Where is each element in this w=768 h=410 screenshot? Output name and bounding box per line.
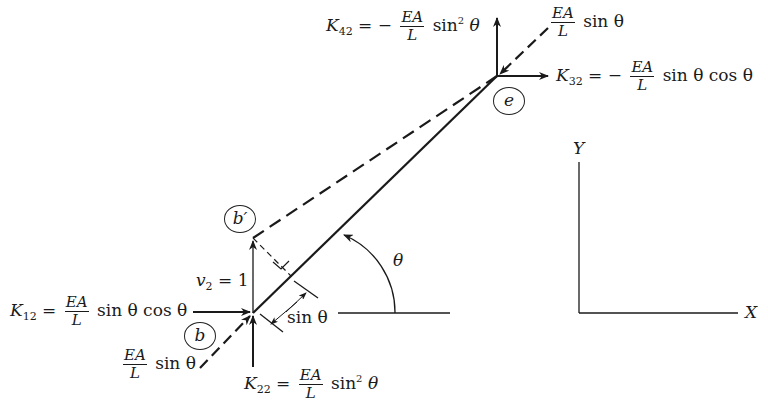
- axial-b-num: EA: [123, 348, 147, 365]
- member-line: [253, 76, 497, 313]
- k22-sup: 2: [356, 373, 362, 384]
- k42-fraction: EAL: [400, 10, 424, 43]
- axial-e-tail: sin θ: [583, 11, 624, 31]
- k12-fraction: EAL: [65, 295, 89, 328]
- k32-symbol: K: [556, 65, 569, 85]
- k42-label: K42 = − EAL sin2 θ: [326, 10, 480, 43]
- perpendicular-line: [253, 238, 291, 276]
- y-axis-label: Y: [573, 140, 584, 157]
- k32-tail: sin θ cos θ: [663, 65, 753, 85]
- k32-den: L: [630, 77, 654, 93]
- axial-e-den: L: [551, 23, 575, 39]
- theta-arc: [344, 235, 395, 313]
- axial-force-e-label: EAL sin θ: [548, 6, 624, 39]
- k32-sub: 32: [569, 75, 583, 88]
- k12-label: K12 = EAL sin θ cos θ: [10, 295, 187, 328]
- displacement-sub: 2: [206, 280, 213, 293]
- k22-tail-pre: sin: [331, 373, 356, 393]
- k22-label: K22 = EAL sin2 θ: [244, 368, 378, 401]
- node-b-text: b: [195, 325, 206, 345]
- k32-fraction: EAL: [630, 60, 654, 93]
- k32-sign: −: [608, 65, 622, 85]
- axial-b-den: L: [123, 365, 147, 381]
- dim-tick-upper: [294, 281, 318, 298]
- k12-den: L: [65, 312, 89, 328]
- axial-force-b-label: EAL sin θ: [120, 348, 196, 381]
- node-e-text: e: [504, 90, 514, 110]
- projection-label: sin θ: [287, 309, 328, 326]
- k22-eq: =: [276, 373, 290, 393]
- angle-label: θ: [393, 252, 403, 269]
- k12-num: EA: [65, 295, 89, 312]
- k42-sup: 2: [458, 15, 464, 26]
- k12-eq: =: [42, 300, 56, 320]
- k42-tail-post: θ: [470, 15, 480, 35]
- x-axis-label: X: [745, 304, 757, 321]
- k12-tail: sin θ cos θ: [97, 300, 187, 320]
- right-angle-mark: [273, 261, 289, 269]
- axial-e-fraction: EAL: [551, 6, 575, 39]
- k42-den: L: [400, 27, 424, 43]
- node-e-label: e: [493, 87, 525, 115]
- k22-symbol: K: [244, 373, 257, 393]
- axial-b-fraction: EAL: [123, 348, 147, 381]
- k32-eq: =: [588, 65, 602, 85]
- k22-sub: 22: [257, 383, 271, 396]
- k12-symbol: K: [10, 300, 23, 320]
- k12-sub: 12: [23, 310, 37, 323]
- displacement-label: v2 = 1: [196, 272, 248, 292]
- k42-sub: 42: [339, 25, 353, 38]
- displacement-var: v: [196, 270, 206, 290]
- axial-e-num: EA: [551, 6, 575, 23]
- node-b-label: b: [184, 322, 216, 350]
- k32-label: K32 = − EAL sin θ cos θ: [556, 60, 753, 93]
- k42-symbol: K: [326, 15, 339, 35]
- k42-sign: −: [378, 15, 392, 35]
- deformed-member-line: [253, 76, 497, 238]
- k22-tail-post: θ: [368, 373, 378, 393]
- k42-tail-pre: sin: [433, 15, 458, 35]
- k22-den: L: [299, 385, 323, 401]
- node-b-prime-text: b′: [233, 208, 248, 228]
- k32-num: EA: [630, 60, 654, 77]
- k22-fraction: EAL: [299, 368, 323, 401]
- axial-b-tail: sin θ: [155, 353, 196, 373]
- k42-num: EA: [400, 10, 424, 27]
- displacement-eq: = 1: [218, 270, 248, 290]
- node-b-prime-label: b′: [224, 205, 256, 233]
- k42-eq: =: [358, 15, 372, 35]
- truss-diagram: b′ b e v2 = 1 sin θ θ K12 = EAL sin θ co…: [0, 0, 768, 410]
- axial-force-e-line: [500, 28, 548, 74]
- k22-num: EA: [299, 368, 323, 385]
